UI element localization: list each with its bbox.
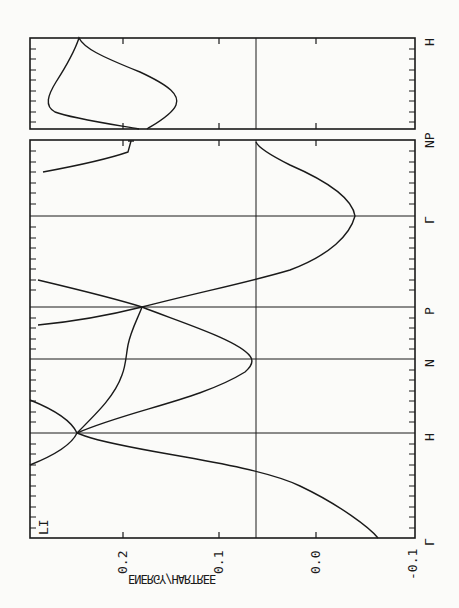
inset-band	[48, 38, 177, 129]
k-label-np: NP	[422, 132, 437, 148]
axis-title: ENERGY/HARTREE	[128, 572, 215, 586]
tick-label-0.2: 0.2	[115, 551, 130, 574]
k-label-gamma: Γ	[422, 216, 437, 224]
k-label-h-end: H	[422, 38, 437, 46]
tick-label-0.1: 0.1	[211, 551, 226, 574]
band-p-gamma	[142, 142, 355, 307]
band-gamma-h-lower	[77, 433, 378, 538]
system-label: LI	[36, 519, 51, 535]
k-label-n: N	[422, 359, 437, 367]
bands-main	[30, 141, 378, 538]
k-label-p: P	[422, 307, 437, 315]
k-label-gamma-start: Γ	[422, 538, 437, 546]
tick-label-neg0.1: -0.1	[405, 549, 420, 580]
k-label-h: H	[422, 433, 437, 441]
bands-inset	[48, 38, 177, 129]
tick-label-0.0: 0.0	[308, 551, 323, 574]
band-gamma-upper	[43, 141, 131, 172]
band-p-upper-left	[38, 280, 142, 325]
k-ticks	[30, 49, 415, 528]
band-structure-plot	[0, 0, 459, 608]
inset-panel-frame	[30, 38, 415, 129]
band-h-n-lower	[77, 307, 252, 433]
